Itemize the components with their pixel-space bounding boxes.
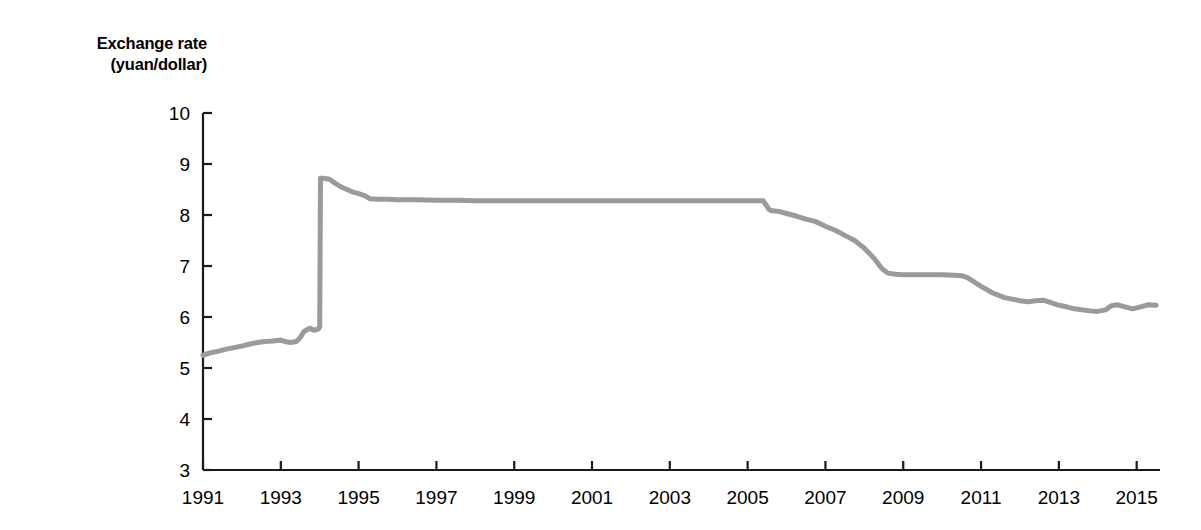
exchange-rate-line-chart: 345678910 199119931995199719992001200320… — [0, 0, 1201, 530]
x-axis-tick-marks — [203, 461, 1137, 470]
y-tick-label: 3 — [179, 460, 190, 481]
x-tick-label: 2007 — [804, 487, 846, 508]
chart-figure: Exchange rate (yuan/dollar) 345678910 19… — [0, 0, 1201, 530]
x-axis-tick-labels: 1991199319951997199920012003200520072009… — [182, 487, 1158, 508]
x-tick-label: 2009 — [882, 487, 924, 508]
y-tick-label: 5 — [179, 358, 190, 379]
exchange-rate-series-line — [203, 178, 1156, 355]
x-tick-label: 1999 — [493, 487, 535, 508]
x-tick-label: 2011 — [961, 487, 1002, 508]
x-tick-label: 1993 — [260, 487, 302, 508]
y-tick-label: 4 — [179, 409, 190, 430]
y-axis-tick-labels: 345678910 — [169, 103, 191, 481]
y-tick-label: 8 — [179, 205, 190, 226]
x-tick-label: 1991 — [182, 487, 224, 508]
x-tick-label: 2015 — [1116, 487, 1158, 508]
y-tick-label: 10 — [169, 103, 190, 124]
y-axis-tick-marks — [203, 113, 212, 470]
y-tick-label: 9 — [179, 154, 190, 175]
y-tick-label: 6 — [179, 307, 190, 328]
x-tick-label: 2001 — [571, 487, 613, 508]
x-tick-label: 2003 — [649, 487, 691, 508]
y-tick-label: 7 — [179, 256, 190, 277]
x-tick-label: 1995 — [337, 487, 379, 508]
x-tick-label: 2013 — [1038, 487, 1080, 508]
x-tick-label: 2005 — [726, 487, 768, 508]
x-tick-label: 1997 — [415, 487, 457, 508]
